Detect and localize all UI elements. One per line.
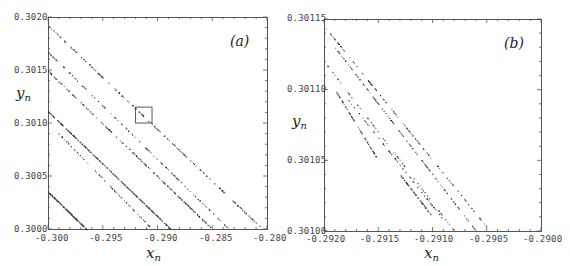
ytick-b-3: 0.30115 [287, 13, 326, 23]
ylabel-b: yn [292, 112, 307, 131]
ytick-b-2: 0.30110 [287, 84, 326, 94]
scatter-plot-b [0, 0, 570, 266]
panel-label-b: (b) [504, 35, 524, 51]
xtick-b-3: -0.2905 [469, 234, 508, 244]
ytick-b-1: 0.30105 [287, 155, 326, 165]
xtick-b-4: -0.2900 [523, 234, 562, 244]
xtick-b-1: -0.2915 [360, 234, 399, 244]
xtick-b-0: -0.2920 [306, 234, 345, 244]
xlabel-b: xn [424, 244, 439, 263]
xtick-b-2: -0.2910 [414, 234, 453, 244]
